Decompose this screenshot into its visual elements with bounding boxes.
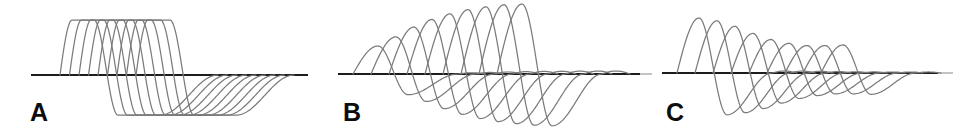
- panel-a: [31, 20, 308, 115]
- panel-b: [338, 4, 652, 126]
- panel-label-c: C: [666, 100, 684, 125]
- waveform-trace: [79, 20, 237, 115]
- waveform-trace: [70, 20, 228, 115]
- waveform-figure: A B C: [0, 0, 977, 136]
- waveform-trace: [677, 18, 797, 115]
- panel-label-b: B: [343, 100, 361, 125]
- panel-c: [662, 18, 953, 115]
- panel-label-a: A: [30, 100, 48, 125]
- waveform-trace: [60, 20, 218, 115]
- waveform-canvas: [0, 0, 977, 136]
